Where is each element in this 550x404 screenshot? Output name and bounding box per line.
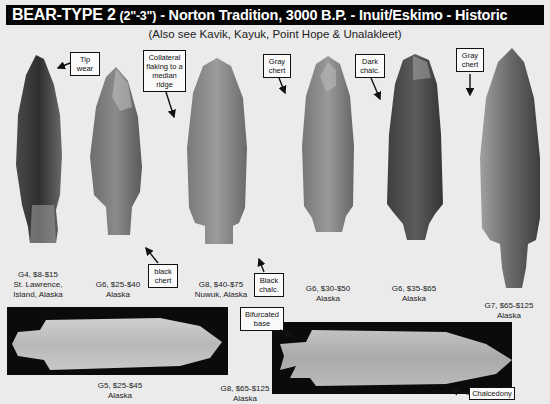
callout-gray-chert-2: Gray chert xyxy=(456,48,484,72)
point-image-1 xyxy=(10,55,68,245)
caption-specimen-2: G6, $25-$40 Alaska xyxy=(88,280,148,300)
caption-specimen-7: G5, $25-$45 Alaska xyxy=(90,381,150,401)
title-main: BEAR-TYPE 2 xyxy=(12,6,116,23)
page-title: BEAR-TYPE 2 (2"-3") - Norton Tradition, … xyxy=(6,5,544,25)
point-image-5 xyxy=(383,54,447,244)
point-image-3 xyxy=(183,58,251,248)
callout-tip-wear: Tip wear xyxy=(70,52,100,76)
title-rest: - Norton Tradition, 3000 B.P. - Inuit/Es… xyxy=(160,7,507,23)
point-image-7 xyxy=(10,312,225,374)
point-image-6 xyxy=(476,48,544,296)
caption-specimen-3: G8, $40-$75 Nuwuk, Alaska xyxy=(188,280,254,300)
caption-specimen-8: G8, $65-$125 Alaska xyxy=(212,384,278,404)
callout-dark-chalc: Dark chalc. xyxy=(355,54,385,78)
callout-black-chert: black chert xyxy=(148,264,178,288)
callout-chalcedony: Chalcedony xyxy=(469,387,515,400)
callout-gray-chert-1: Gray chert xyxy=(263,54,291,78)
callout-black-chalc: Black chalc. xyxy=(254,273,284,297)
point-image-4 xyxy=(298,56,358,236)
point-image-8 xyxy=(276,326,514,390)
caption-specimen-4: G6, $30-$50 Alaska xyxy=(298,284,358,304)
title-size: (2"-3") xyxy=(119,9,156,23)
callout-bifurcated-base: Bifurcated base xyxy=(240,307,284,331)
callout-collateral-flaking: Collateral flaking to a median ridge xyxy=(143,50,186,92)
point-image-2 xyxy=(86,67,146,237)
caption-specimen-5: G6, $35-$65 Alaska xyxy=(384,284,444,304)
caption-specimen-6: G7, $65-$125 Alaska xyxy=(476,301,542,321)
subtitle: (Also see Kavik, Kayuk, Point Hope & Una… xyxy=(0,28,550,40)
caption-specimen-1: G4, $8-$15 St. Lawrence, Island, Alaska xyxy=(8,270,68,300)
